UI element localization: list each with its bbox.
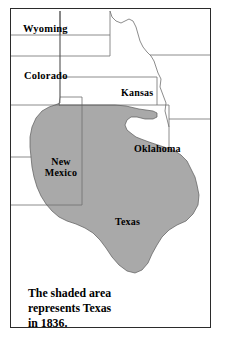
map-caption-line-1: The shaded area bbox=[28, 286, 152, 301]
label-kansas: Kansas bbox=[121, 88, 153, 99]
map-caption-line-3: in 1836. bbox=[28, 316, 152, 328]
border-nebraska-missouri-river bbox=[110, 11, 158, 73]
label-texas: Texas bbox=[115, 217, 140, 228]
border-missouri-east bbox=[158, 73, 169, 127]
map-caption: The shaded area represents Texas in 1836… bbox=[28, 286, 152, 328]
label-oklahoma: Oklahoma bbox=[134, 144, 181, 155]
map-frame-border: Wyoming Colorado Kansas New Mexico Oklah… bbox=[10, 8, 211, 328]
map-figure: Wyoming Colorado Kansas New Mexico Oklah… bbox=[0, 0, 225, 337]
map-caption-line-2: represents Texas bbox=[28, 301, 152, 316]
shaded-texas-1836-region bbox=[30, 11, 199, 273]
label-new-mexico: New Mexico bbox=[39, 157, 83, 179]
label-wyoming: Wyoming bbox=[23, 23, 68, 34]
label-colorado: Colorado bbox=[24, 70, 68, 81]
label-new-mexico-line2: Mexico bbox=[39, 168, 83, 179]
